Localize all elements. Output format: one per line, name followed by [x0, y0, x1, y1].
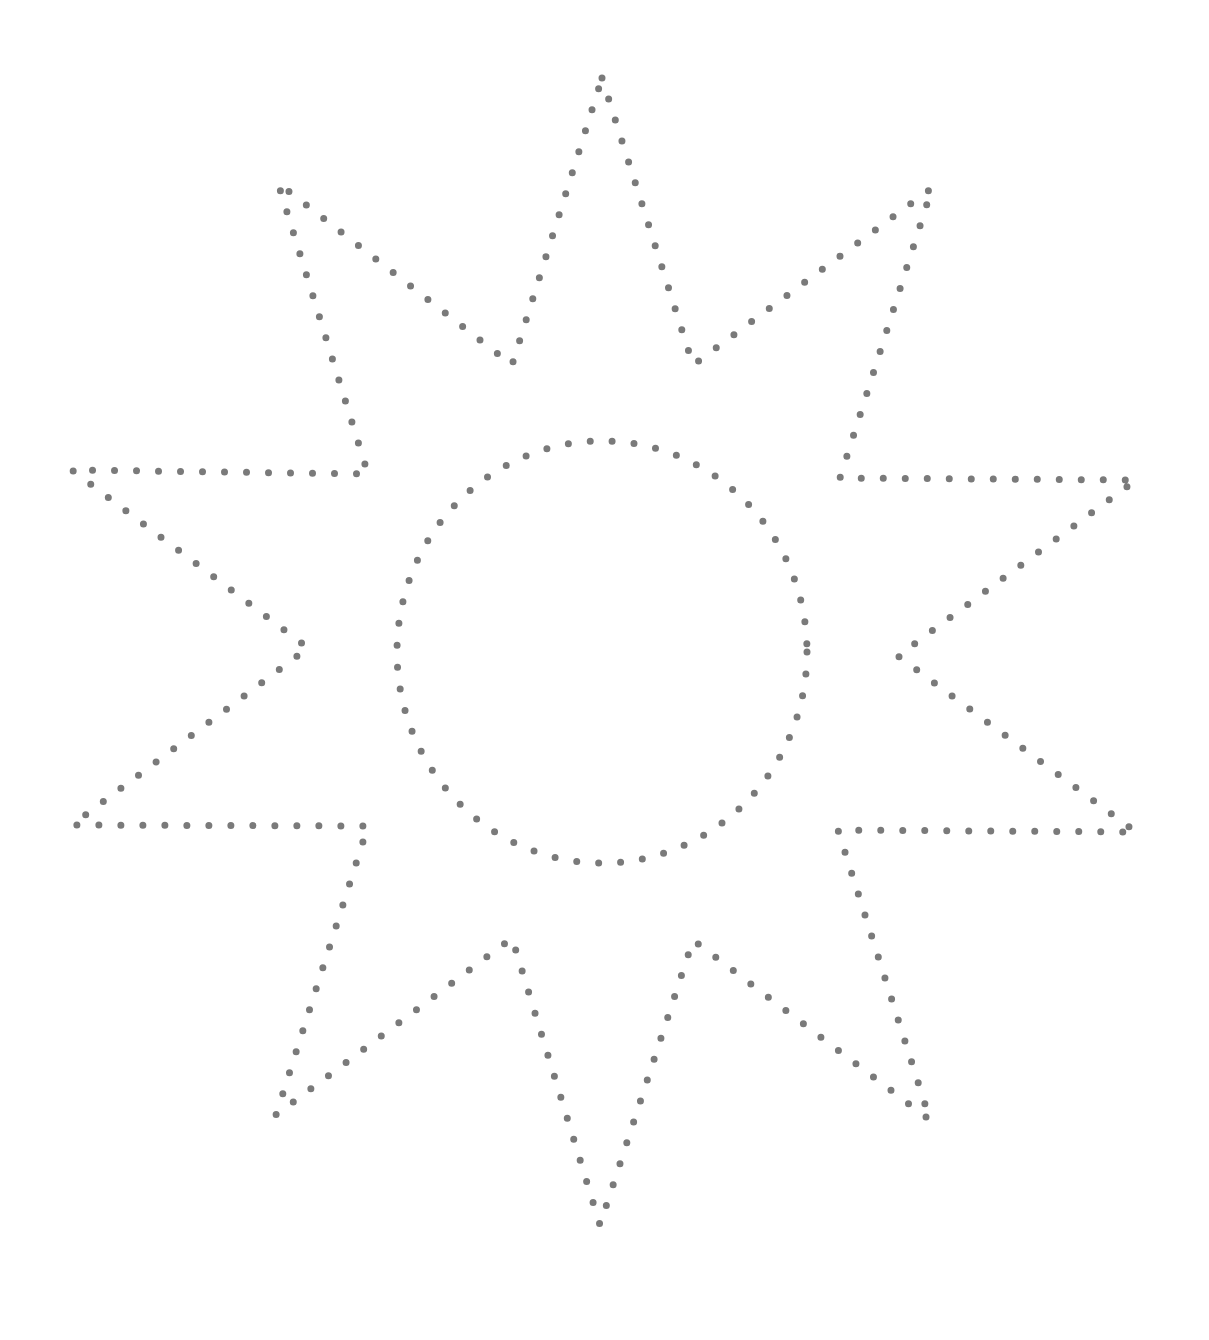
sun-rays-dotted-outline [72, 78, 1136, 1225]
sun-tracing-drawing [0, 0, 1209, 1340]
sun-center-dotted-circle [397, 441, 807, 863]
